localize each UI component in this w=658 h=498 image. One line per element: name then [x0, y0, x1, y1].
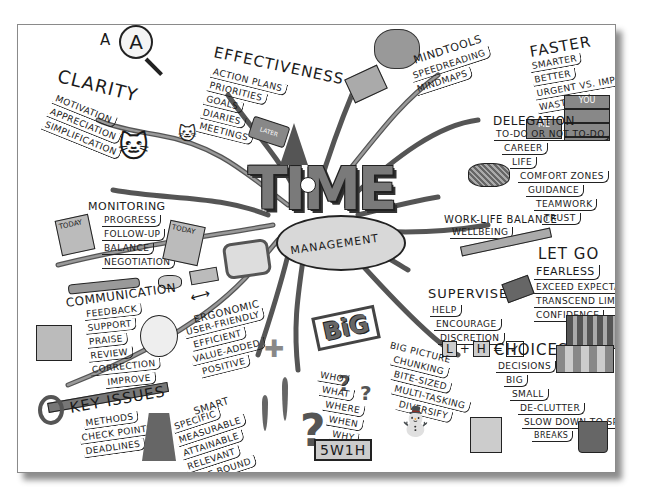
list-item: PROGRESS	[102, 215, 161, 227]
list-item: TO-DO OR NOT TO-DO	[494, 129, 610, 141]
kitten-icon: 🐱	[178, 123, 197, 144]
bar-chart-icon	[566, 315, 616, 349]
list-item: BALANCE	[102, 243, 154, 255]
face-icon	[140, 315, 178, 357]
brain-icon	[374, 29, 420, 69]
branch-delegation-list: TO-DO OR NOT TO-DO CAREER LIFE COMFORT Z…	[494, 129, 610, 227]
letter-a-icon: A	[100, 31, 110, 49]
list-item: GUIDANCE	[526, 185, 584, 197]
list-item: SUPPORT	[85, 318, 137, 335]
list-item: DECISIONS	[496, 361, 556, 373]
list-item: HELP	[430, 305, 462, 317]
list-item: ENCOURAGE	[434, 319, 502, 331]
list-item: COMFORT ZONES	[518, 171, 609, 183]
tortoise-icon	[468, 163, 510, 187]
list-item: EXCEED EXPECTATIONS	[534, 282, 616, 294]
list-item: FEARLESS	[534, 265, 600, 280]
monitor-icon	[222, 238, 273, 280]
formula-plus: +	[460, 342, 470, 356]
snowman-umbrella-icon: ⛄	[398, 405, 433, 438]
branch-work-life-heading: WORK-LIFE BALANCE	[444, 215, 557, 225]
magnifier-icon: A	[119, 25, 153, 59]
branch-delegation-heading: DELEGATION	[493, 115, 575, 127]
list-item: BIG	[504, 375, 528, 387]
branch-let-go-heading: LET GO	[538, 247, 599, 262]
list-item: BREAKS	[532, 431, 573, 442]
list-item: TEAMWORK	[534, 199, 597, 211]
mind-map-canvas: TIME MANAGEMENT A A CLARITY MOTIVATION A…	[17, 24, 616, 473]
branch-monitoring-heading: MONITORING	[88, 201, 166, 212]
5w1h-badge: 5W1H	[314, 439, 372, 461]
table-cake-icon	[556, 345, 614, 373]
cat-icon: 🐱	[118, 129, 149, 164]
central-title: TIME	[248, 155, 394, 223]
list-item: TRANSCEND LIMITS	[534, 296, 616, 308]
list-item: DE-CLUTTER	[518, 403, 585, 415]
list-item: LIFE	[510, 157, 537, 169]
wastebasket-icon	[470, 417, 502, 453]
branch-supervise-heading: SUPERVISE	[428, 287, 508, 300]
plus-character-icon: ✚	[264, 335, 284, 363]
key-ring-icon	[38, 395, 64, 425]
coffee-mug-icon	[578, 421, 608, 453]
gift-box-icon	[36, 325, 72, 361]
today-note-icon: TODAY	[55, 214, 96, 256]
list-item: SMALL	[510, 389, 549, 401]
list-item: CAREER	[502, 143, 548, 155]
list-item: FOLLOW-UP	[102, 229, 165, 241]
clock-icon	[300, 177, 316, 193]
formula-h: H	[473, 341, 490, 357]
